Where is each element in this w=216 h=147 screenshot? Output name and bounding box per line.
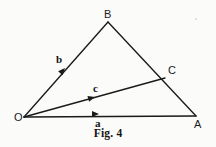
scan-speck: [195, 18, 197, 20]
vertex-label-o: O: [14, 112, 23, 123]
vertex-label-c: C: [168, 65, 176, 76]
triangle-diagram: [0, 0, 216, 147]
vector-c-label: c: [93, 83, 98, 94]
side-OA: [24, 116, 196, 117]
vector-b-label: b: [56, 54, 62, 65]
figure-caption: Fig. 4: [0, 128, 216, 140]
vector-c-arrowhead-icon: [87, 96, 95, 102]
vertex-label-b: B: [104, 9, 111, 20]
figure-container: OBAC bca Fig. 4: [0, 0, 216, 147]
side-OB: [24, 22, 108, 117]
side-BA: [108, 22, 196, 116]
